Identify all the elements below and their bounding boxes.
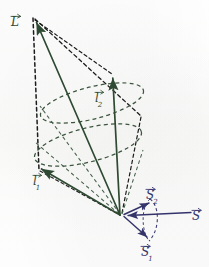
label-l1-subscript: 1 <box>36 184 40 192</box>
label-spin-2: S2 <box>146 186 159 204</box>
lower-cone-base-ellipse <box>31 115 146 175</box>
label-S1-subscript: 1 <box>148 255 152 263</box>
construction-line-right-rim-to-apex <box>122 117 141 213</box>
orbital-vectors-group <box>37 23 121 216</box>
generator-lower-right <box>122 150 143 214</box>
vector-S <box>128 213 191 216</box>
vector-diagram-figure: L l2 l1 <box>0 0 209 267</box>
vector-l2 <box>113 78 120 215</box>
upper-precession-cone-group <box>37 75 148 132</box>
generator-lower-left <box>35 142 119 214</box>
label-l2-subscript: 2 <box>98 101 102 109</box>
construction-lines-group <box>33 18 141 214</box>
label-orbital-2: l2 <box>95 89 103 107</box>
lower-precession-cone-group <box>31 115 146 175</box>
vector-S2 <box>124 203 149 215</box>
label-spin-1: S1 <box>141 243 154 261</box>
vector-diagram-canvas <box>0 0 209 267</box>
label-S-symbol: S <box>192 209 200 223</box>
label-S2-subscript: 2 <box>153 198 157 206</box>
label-spin-total: S <box>192 207 200 223</box>
construction-line-L-right-rim <box>35 19 141 116</box>
label-L-symbol: L <box>11 15 19 29</box>
label-orbital-1: l1 <box>33 172 41 190</box>
vector-l1 <box>42 169 121 215</box>
construction-line-L-left-rim <box>33 18 39 170</box>
label-total-angular-momentum: L <box>11 13 19 29</box>
upper-cone-base-ellipse <box>37 75 148 132</box>
vector-L <box>37 23 121 216</box>
